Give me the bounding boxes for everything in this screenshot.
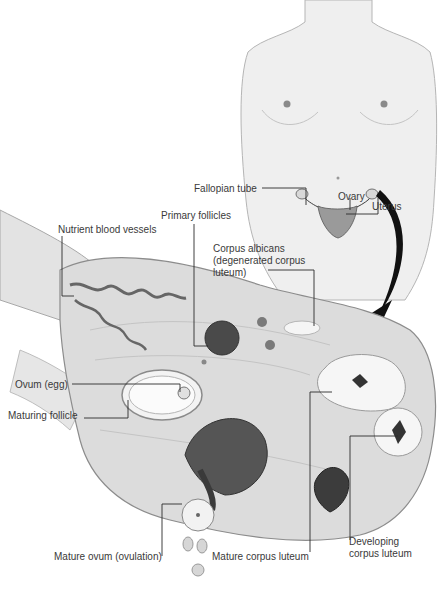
label-uterus: Uterus <box>372 201 401 213</box>
label-ovum: Ovum (egg) <box>15 379 68 391</box>
label-corpus-albicans-2: (degenerated corpus <box>213 255 305 267</box>
label-developing-corpus-luteum-2: corpus luteum <box>349 548 412 560</box>
label-maturing-follicle: Maturing follicle <box>8 410 77 422</box>
corpus-albicans <box>284 321 320 335</box>
ovarian-cycle-diagram <box>0 0 440 590</box>
label-mature-corpus-luteum: Mature corpus luteum <box>212 551 309 563</box>
label-nutrient-blood-vessels: Nutrient blood vessels <box>58 224 156 236</box>
label-developing-corpus-luteum-1: Developing <box>349 536 399 548</box>
right-ovary-small <box>366 189 378 199</box>
label-ovary: Ovary <box>338 191 365 203</box>
label-fallopian-tube: Fallopian tube <box>194 183 257 195</box>
label-corpus-albicans-1: Corpus albicans <box>213 243 285 255</box>
label-mature-ovum: Mature ovum (ovulation) <box>54 551 162 563</box>
primary-follicle-large <box>205 321 239 355</box>
label-corpus-albicans-3: luteum) <box>213 267 246 279</box>
label-primary-follicles: Primary follicles <box>161 210 231 222</box>
developing-corpus-luteum <box>374 408 422 456</box>
